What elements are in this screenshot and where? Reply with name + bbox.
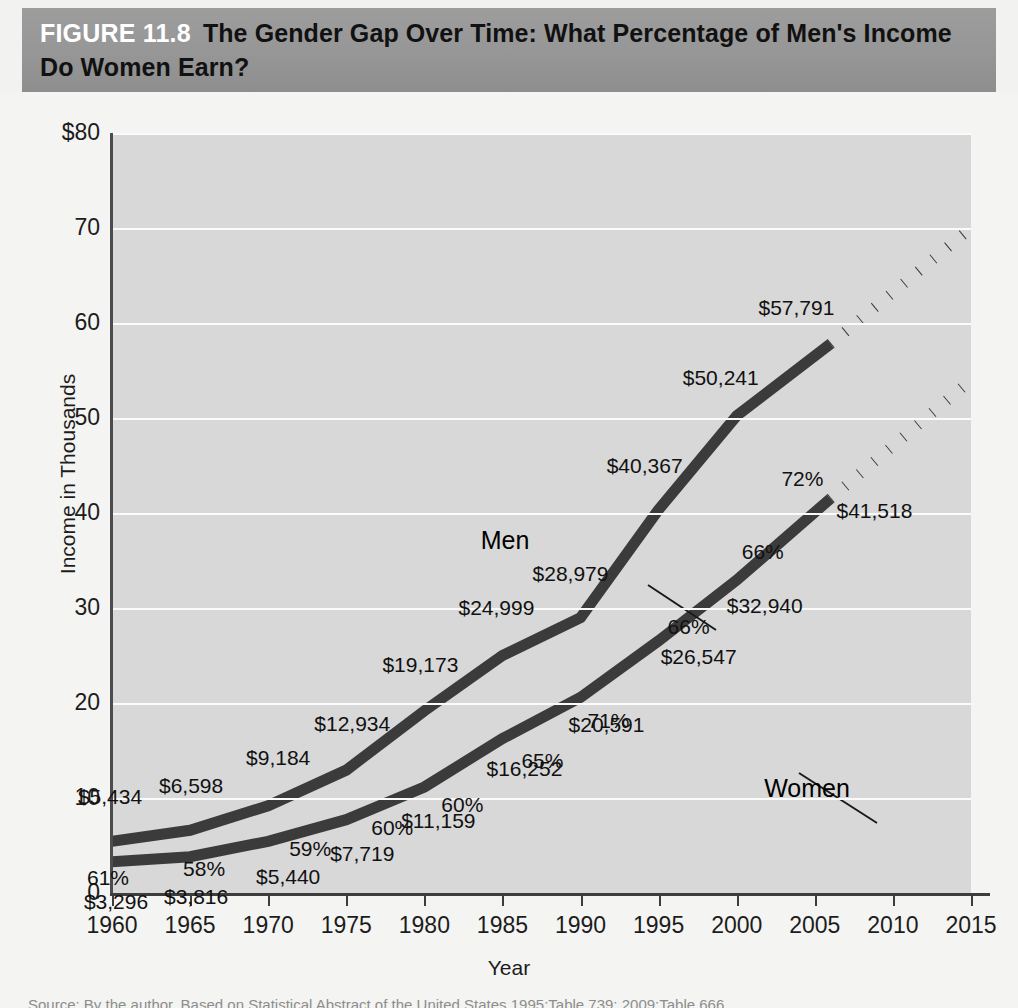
y-axis-title: Income in Thousands xyxy=(56,354,80,594)
projection-line-men xyxy=(830,228,971,344)
x-tick-mark xyxy=(424,893,426,906)
women-value-label: $41,518 xyxy=(836,499,912,523)
ratio-label: 60% xyxy=(441,793,483,817)
men-value-label: $19,173 xyxy=(382,653,458,677)
men-value-label: $28,979 xyxy=(533,562,609,586)
gridline-70 xyxy=(112,228,971,230)
men-value-label: $50,241 xyxy=(683,366,759,390)
women-value-label: $3,816 xyxy=(164,885,228,909)
x-tick-label: 1995 xyxy=(633,912,684,939)
men-value-label: $12,934 xyxy=(314,712,390,736)
x-tick-label: 2015 xyxy=(945,912,996,939)
men-value-label: $24,999 xyxy=(458,596,534,620)
ratio-label: 66% xyxy=(668,615,710,639)
chart-container: $80706050403020100 196019651970197519801… xyxy=(0,92,1018,1008)
figure-header-banner: FIGURE 11.8The Gender Gap Over Time: Wha… xyxy=(22,8,996,92)
x-tick-mark xyxy=(815,893,817,906)
ratio-label: 66% xyxy=(742,540,784,564)
men-value-label: $5,434 xyxy=(78,785,142,809)
women-value-label: $3,296 xyxy=(84,890,148,914)
x-tick-mark xyxy=(502,893,504,906)
source-note: Source: By the author. Based on Statisti… xyxy=(28,996,988,1008)
ratio-label: 61% xyxy=(87,866,129,890)
men-value-label: $40,367 xyxy=(607,454,683,478)
x-tick-mark xyxy=(659,893,661,906)
x-tick-label: 1965 xyxy=(164,912,215,939)
men-value-label: $9,184 xyxy=(246,746,310,770)
ratio-label: 59% xyxy=(289,837,331,861)
series-annotation-men: Men xyxy=(481,526,530,555)
gridline-80 xyxy=(112,133,971,135)
x-tick-label: 1990 xyxy=(555,912,606,939)
series-annotation-women: Women xyxy=(764,774,850,803)
men-value-label: $6,598 xyxy=(159,774,223,798)
ratio-label: 71% xyxy=(588,709,630,733)
x-tick-label: 1970 xyxy=(243,912,294,939)
y-tick-label: 60 xyxy=(42,309,100,336)
x-tick-label: 1980 xyxy=(399,912,450,939)
x-tick-label: 1975 xyxy=(321,912,372,939)
x-tick-mark xyxy=(581,893,583,906)
y-tick-label: 70 xyxy=(42,214,100,241)
y-axis-ticks: $80706050403020100 xyxy=(0,133,100,893)
x-tick-mark xyxy=(268,893,270,906)
ratio-label: 58% xyxy=(183,857,225,881)
ratio-label: 65% xyxy=(521,749,563,773)
gridline-30 xyxy=(112,608,971,610)
x-tick-mark xyxy=(346,893,348,906)
figure-title: FIGURE 11.8The Gender Gap Over Time: Wha… xyxy=(40,16,982,84)
x-tick-label: 2000 xyxy=(711,912,762,939)
y-tick-label: 20 xyxy=(42,689,100,716)
x-tick-label: 1985 xyxy=(477,912,528,939)
x-tick-mark xyxy=(971,893,973,906)
y-axis-line xyxy=(110,133,113,895)
women-value-label: $7,719 xyxy=(330,842,394,866)
x-axis-title: Year xyxy=(0,956,1018,980)
women-value-label: $32,940 xyxy=(727,594,803,618)
projection-line-women xyxy=(830,380,971,499)
ratio-label: 60% xyxy=(371,816,413,840)
x-tick-label: 2005 xyxy=(789,912,840,939)
gridline-20 xyxy=(112,703,971,705)
x-axis-line xyxy=(110,893,990,896)
x-tick-label: 2010 xyxy=(867,912,918,939)
figure-number-label: FIGURE 11.8 xyxy=(40,19,191,47)
women-value-label: $5,440 xyxy=(256,865,320,889)
gridline-60 xyxy=(112,323,971,325)
x-tick-mark xyxy=(737,893,739,906)
y-tick-label: $80 xyxy=(42,119,100,146)
y-tick-label: 30 xyxy=(42,594,100,621)
ratio-label: 72% xyxy=(781,467,823,491)
women-value-label: $26,547 xyxy=(661,645,737,669)
gridline-50 xyxy=(112,418,971,420)
men-value-label: $57,791 xyxy=(758,296,834,320)
x-tick-label: 1960 xyxy=(86,912,137,939)
x-tick-mark xyxy=(893,893,895,906)
